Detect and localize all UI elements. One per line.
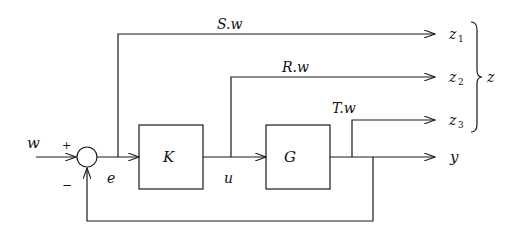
output-z2: z 2 xyxy=(448,69,464,87)
error-label: e xyxy=(107,170,115,186)
output-z1: z 1 xyxy=(448,26,464,44)
z2-subscript: 2 xyxy=(458,77,464,87)
branch-r-label: R.w xyxy=(281,59,309,75)
control-block-diagram: w + − e S.w K u R.w G y T.w z 1 z 2 z 3 xyxy=(0,0,514,237)
branch-t-line xyxy=(352,120,435,157)
plus-sign: + xyxy=(62,139,71,152)
summing-junction xyxy=(77,147,97,167)
minus-sign: − xyxy=(62,178,72,192)
block-g-label: G xyxy=(284,148,296,166)
z3-subscript: 3 xyxy=(458,120,464,130)
block-g-rect xyxy=(266,125,330,189)
z3-label: z xyxy=(448,112,457,128)
z1-label: z xyxy=(448,26,457,42)
z2-label: z xyxy=(448,69,457,85)
output-z3: z 3 xyxy=(448,112,464,130)
control-label: u xyxy=(224,170,233,186)
branch-s-label: S.w xyxy=(217,16,243,32)
input-signal-w: w + − xyxy=(27,134,76,192)
branch-t-label: T.w xyxy=(332,100,356,116)
branch-r-line xyxy=(231,77,435,157)
block-k-label: K xyxy=(162,148,175,166)
block-k: K xyxy=(139,125,203,189)
right-brace xyxy=(471,22,482,132)
input-label: w xyxy=(27,134,40,152)
branch-s-line xyxy=(118,34,435,157)
block-g: G xyxy=(266,125,330,189)
output-label: y xyxy=(449,148,459,166)
z1-subscript: 1 xyxy=(458,34,464,44)
brace-label: z xyxy=(486,69,495,85)
